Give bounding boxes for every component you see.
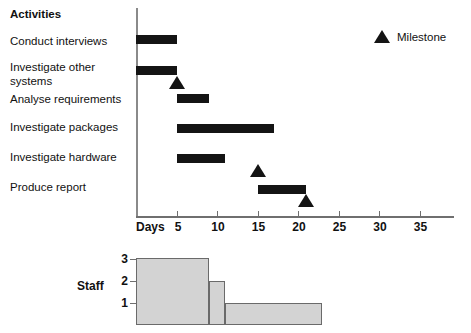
row-label-produce-report: Produce report	[10, 181, 86, 194]
staff-step-block-3	[136, 258, 209, 325]
x-axis-tick-25	[339, 211, 340, 217]
gantt-x-axis-line	[136, 216, 454, 218]
milestone-marker-day-5	[169, 76, 185, 89]
x-axis-tick-20	[298, 211, 299, 217]
x-axis-tick-35	[420, 211, 421, 217]
x-axis-tick-label-5: 5	[175, 220, 182, 234]
staff-tick-label-1: 1	[118, 296, 128, 310]
x-axis-tick-30	[379, 211, 380, 217]
row-label-analyse-requirements: Analyse requirements	[10, 93, 121, 106]
staff-axis-title: Staff	[77, 279, 104, 293]
x-axis-title: Days	[136, 220, 165, 234]
x-axis-tick-label-35: 35	[414, 220, 427, 234]
gantt-chart-figure: Activities Conduct interviews Investigat…	[0, 0, 471, 333]
staff-tick-label-3: 3	[118, 252, 128, 266]
milestone-marker-day-15	[250, 164, 266, 177]
row-label-investigate-hardware: Investigate hardware	[10, 151, 117, 164]
task-bar-investigate-hardware	[177, 154, 226, 163]
x-axis-tick-15	[258, 211, 259, 217]
x-axis-tick-label-30: 30	[373, 220, 386, 234]
triangle-up-icon	[374, 30, 390, 43]
x-axis-tick-label-10: 10	[211, 220, 224, 234]
legend-label-milestone: Milestone	[397, 31, 446, 43]
staff-step-block-1	[225, 303, 322, 326]
x-axis-tick-label-25: 25	[333, 220, 346, 234]
row-label-investigate-other-systems: Investigate other	[10, 61, 95, 74]
row-label-conduct-interviews: Conduct interviews	[10, 35, 107, 48]
staff-step-block-2	[209, 281, 225, 326]
task-bar-analyse-requirements	[177, 94, 209, 103]
x-axis-tick-label-20: 20	[292, 220, 305, 234]
task-bar-conduct-interviews	[136, 35, 177, 44]
milestone-marker-day-21	[298, 194, 314, 207]
task-bar-investigate-other-systems	[136, 66, 177, 75]
staff-tick-label-2: 2	[118, 274, 128, 288]
x-axis-tick-label-15: 15	[252, 220, 265, 234]
task-bar-produce-report	[258, 185, 307, 194]
legend: Milestone	[374, 30, 446, 43]
row-label-investigate-packages: Investigate packages	[10, 121, 118, 134]
task-bar-investigate-packages	[177, 124, 274, 133]
x-axis-tick-5	[177, 211, 178, 217]
row-label-investigate-other-systems-line2: systems	[10, 75, 52, 88]
x-axis-tick-10	[217, 211, 218, 217]
activities-header: Activities	[10, 8, 61, 21]
